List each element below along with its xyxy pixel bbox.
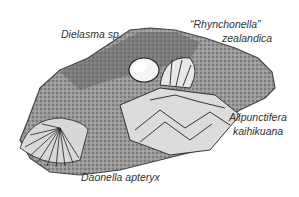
label-rhynchonella-line2: zealandica [222,32,272,44]
label-rhynchonella-line1: “Rhynchonella” [190,18,261,30]
fossil-illustration: Dielasma sp. “Rhynchonella” zealandica A… [0,0,299,197]
label-dielasma: Dielasma sp. [61,28,122,40]
label-daonella: Daonella apteryx [81,171,160,183]
label-alipunctifera-line2: kaihikuana [233,125,283,137]
label-alipunctifera-line1: Alipunctifera [229,111,287,123]
